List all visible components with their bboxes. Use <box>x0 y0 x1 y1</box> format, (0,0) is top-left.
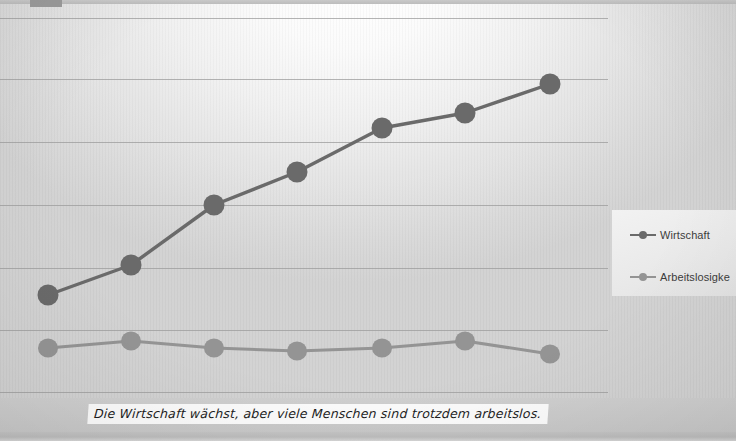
data-point-marker[interactable] <box>38 339 58 358</box>
chart-plot-area <box>0 8 608 398</box>
data-point-marker[interactable] <box>204 195 225 216</box>
slide-screenshot: Wirtschaft Arbeitslosigke Die Wirtschaft… <box>0 0 736 441</box>
data-point-marker[interactable] <box>540 345 560 364</box>
legend-marker-icon <box>630 272 656 282</box>
data-point-marker[interactable] <box>540 74 561 95</box>
data-point-marker[interactable] <box>372 339 392 358</box>
data-point-marker[interactable] <box>121 255 142 276</box>
data-point-marker[interactable] <box>204 339 224 358</box>
slide-caption: Die Wirtschaft wächst, aber viele Mensch… <box>87 404 548 424</box>
data-point-marker[interactable] <box>287 342 307 361</box>
data-point-marker[interactable] <box>455 103 476 124</box>
chart-legend: Wirtschaft Arbeitslosigke <box>612 210 736 296</box>
legend-label: Arbeitslosigke <box>660 271 730 283</box>
data-point-marker[interactable] <box>455 332 475 351</box>
slide-corner-tab <box>30 0 62 7</box>
data-point-marker[interactable] <box>121 332 141 351</box>
chart-series-layer <box>0 8 608 398</box>
data-point-marker[interactable] <box>372 118 393 139</box>
data-point-marker[interactable] <box>287 162 308 183</box>
legend-entry-arbeitslosigkeit[interactable]: Arbeitslosigke <box>630 271 730 283</box>
slide-top-edge <box>0 0 736 4</box>
slide-bottom-edge <box>0 432 736 441</box>
legend-marker-icon <box>630 230 656 240</box>
legend-label: Wirtschaft <box>660 229 710 241</box>
legend-entry-wirtschaft[interactable]: Wirtschaft <box>630 229 710 241</box>
data-point-marker[interactable] <box>38 285 59 306</box>
